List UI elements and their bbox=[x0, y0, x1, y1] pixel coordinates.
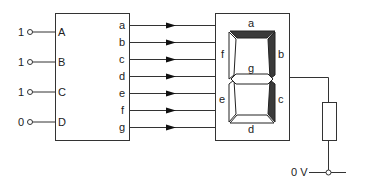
input-D: 0 D bbox=[18, 116, 66, 128]
arrow-e-icon bbox=[166, 91, 176, 97]
output-b-label: b bbox=[119, 36, 125, 48]
ground-terminal-icon bbox=[326, 170, 331, 175]
input-D-value: 0 bbox=[18, 116, 24, 128]
input-A-terminal-icon bbox=[28, 30, 33, 35]
output-g-label: g bbox=[119, 121, 125, 133]
arrow-f-icon bbox=[166, 108, 176, 114]
input-D-terminal-icon bbox=[28, 120, 33, 125]
output-d-label: d bbox=[119, 70, 125, 82]
arrow-a-icon bbox=[166, 23, 176, 29]
segment-b-label: b bbox=[278, 48, 284, 60]
decoder-diagram: 1 A 1 B 1 C 0 D a b c d e f g bbox=[0, 0, 365, 179]
output-c-label: c bbox=[119, 53, 125, 65]
input-C-terminal-icon bbox=[28, 90, 33, 95]
arrow-c-icon bbox=[166, 57, 176, 63]
input-D-label: D bbox=[58, 116, 66, 128]
output-e-label: e bbox=[119, 87, 125, 99]
segment-g bbox=[231, 74, 273, 84]
output-a-label: a bbox=[119, 19, 126, 31]
input-C: 1 C bbox=[18, 86, 66, 98]
segment-d-label: d bbox=[248, 123, 254, 135]
input-A-value: 1 bbox=[18, 26, 24, 38]
segment-a-label: a bbox=[248, 17, 255, 29]
arrow-b-icon bbox=[166, 40, 176, 46]
input-A-label: A bbox=[58, 26, 66, 38]
input-B: 1 B bbox=[18, 56, 65, 68]
input-A: 1 A bbox=[18, 26, 66, 38]
segment-d bbox=[230, 115, 274, 123]
input-C-label: C bbox=[58, 86, 66, 98]
input-B-terminal-icon bbox=[28, 60, 33, 65]
common-resistor-circuit: 0 V bbox=[290, 78, 346, 179]
ground-label: 0 V bbox=[291, 166, 308, 178]
resistor-icon bbox=[323, 103, 337, 141]
input-C-value: 1 bbox=[18, 86, 24, 98]
segment-g-label: g bbox=[248, 62, 254, 74]
segment-e-label: e bbox=[219, 93, 225, 105]
arrow-d-icon bbox=[166, 74, 176, 80]
input-B-label: B bbox=[58, 56, 65, 68]
segment-a bbox=[230, 31, 275, 38]
arrow-g-icon bbox=[166, 125, 176, 131]
output-wires bbox=[129, 23, 215, 131]
input-B-value: 1 bbox=[18, 56, 24, 68]
segment-c-label: c bbox=[278, 93, 284, 105]
